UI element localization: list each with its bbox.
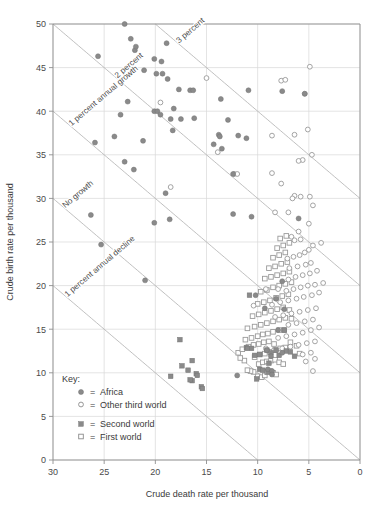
- data-point-africa: [163, 191, 168, 196]
- data-point-other-third-world: [296, 229, 301, 234]
- data-point-other-third-world: [315, 268, 320, 273]
- x-axis-ticks: 302520151050: [48, 460, 363, 477]
- data-point-first-world: [249, 336, 254, 341]
- data-point-africa: [264, 348, 269, 353]
- data-point-other-third-world: [308, 350, 313, 355]
- data-point-first-world: [79, 434, 84, 439]
- data-point-second-world: [247, 293, 252, 298]
- data-point-other-third-world: [286, 322, 291, 327]
- data-point-first-world: [278, 236, 283, 241]
- data-point-other-third-world: [294, 296, 299, 301]
- data-point-africa: [160, 71, 165, 76]
- data-point-first-world: [250, 314, 255, 319]
- x-tick-label: 30: [48, 467, 58, 477]
- data-point-other-third-world: [300, 352, 305, 357]
- data-point-first-world: [287, 241, 292, 246]
- y-axis-title: Crude birth rate per thousand: [5, 183, 15, 301]
- data-point-other-third-world: [286, 210, 291, 215]
- data-point-first-world: [275, 307, 280, 312]
- data-point-other-third-world: [294, 321, 299, 326]
- data-point-other-third-world: [276, 336, 281, 341]
- chart-legend: Key:=Africa=Other third world=Second wor…: [62, 374, 167, 442]
- data-point-other-third-world: [302, 319, 307, 324]
- data-point-first-world: [272, 342, 277, 347]
- data-point-other-third-world: [305, 308, 310, 313]
- data-point-other-third-world: [302, 250, 307, 255]
- data-point-second-world: [188, 377, 193, 382]
- data-point-first-world: [280, 294, 285, 299]
- data-point-other-third-world: [311, 243, 316, 248]
- data-point-other-third-world: [305, 283, 310, 288]
- data-point-first-world: [262, 300, 267, 305]
- data-point-first-world: [281, 362, 286, 367]
- data-point-africa: [211, 142, 216, 147]
- data-point-africa: [218, 96, 223, 101]
- data-point-other-third-world: [314, 306, 319, 311]
- data-point-africa: [170, 128, 175, 133]
- refline-label-no-growth: No growth: [61, 179, 96, 210]
- y-tick-label: 0: [41, 455, 46, 465]
- data-point-other-third-world: [287, 266, 292, 271]
- data-point-africa: [191, 88, 196, 93]
- data-point-second-world: [257, 352, 262, 357]
- data-point-second-world: [249, 346, 254, 351]
- data-point-other-third-world: [281, 313, 286, 318]
- x-tick-label: 0: [357, 467, 362, 477]
- data-point-second-world: [180, 364, 185, 369]
- data-point-other-third-world: [321, 281, 326, 286]
- data-point-other-third-world: [292, 238, 297, 243]
- data-point-africa: [280, 279, 285, 284]
- legend-equals-sign: =: [90, 387, 95, 397]
- data-point-other-third-world: [168, 185, 173, 190]
- data-point-africa: [192, 116, 197, 121]
- data-point-africa: [302, 91, 307, 96]
- data-point-other-third-world: [290, 196, 295, 201]
- data-point-first-world: [255, 334, 260, 339]
- data-point-other-third-world: [300, 273, 305, 278]
- data-point-first-world: [273, 264, 278, 269]
- data-point-other-third-world: [263, 287, 268, 292]
- data-point-first-world: [243, 337, 248, 342]
- data-point-africa: [296, 216, 301, 221]
- data-point-africa: [282, 307, 287, 312]
- data-point-africa: [92, 140, 97, 145]
- data-point-second-world: [274, 348, 279, 353]
- data-point-first-world: [265, 321, 270, 326]
- data-point-other-third-world: [293, 274, 298, 279]
- data-point-other-third-world: [303, 359, 308, 364]
- data-point-other-third-world: [296, 159, 301, 164]
- data-point-africa: [246, 88, 251, 93]
- data-point-other-third-world: [313, 282, 318, 287]
- data-point-other-third-world: [298, 285, 303, 290]
- data-point-other-third-world: [298, 194, 303, 199]
- data-point-first-world: [260, 332, 265, 337]
- data-point-africa: [164, 41, 169, 46]
- data-point-second-world: [254, 377, 259, 382]
- data-point-other-third-world: [285, 256, 290, 261]
- data-point-first-world: [245, 368, 250, 373]
- data-point-other-third-world: [278, 300, 283, 305]
- data-point-first-world: [281, 243, 286, 248]
- data-point-other-third-world: [297, 253, 302, 258]
- data-point-second-world: [260, 368, 265, 373]
- data-point-first-world: [256, 312, 261, 317]
- x-tick-label: 10: [253, 467, 263, 477]
- refline-label-3-percent: 3 percent: [174, 16, 206, 45]
- data-point-first-world: [275, 273, 280, 278]
- data-point-first-world: [252, 324, 257, 329]
- data-point-other-third-world: [273, 315, 278, 320]
- data-point-other-third-world: [286, 277, 291, 282]
- data-point-africa: [231, 171, 236, 176]
- data-point-other-third-world: [311, 203, 316, 208]
- data-point-other-third-world: [296, 343, 301, 348]
- data-point-second-world: [200, 386, 205, 391]
- y-tick-label: 10: [36, 368, 46, 378]
- data-point-africa: [244, 136, 249, 141]
- data-point-africa: [128, 36, 133, 41]
- data-point-other-third-world: [311, 317, 316, 322]
- data-point-first-world: [245, 326, 250, 331]
- data-point-africa: [152, 56, 157, 61]
- data-point-other-third-world: [251, 303, 256, 308]
- reference-line-labels: 3 percent3 percent2 percent2 percent1 pe…: [61, 16, 207, 299]
- data-point-other-third-world: [286, 298, 291, 303]
